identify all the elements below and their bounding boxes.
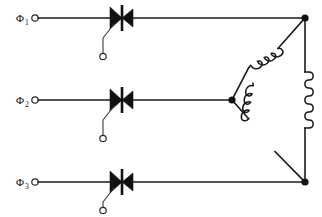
phase-1-thyristor-anode-triangle <box>110 7 122 29</box>
phase-2-group: Φ 2 <box>16 87 232 142</box>
node-top-right <box>301 14 308 21</box>
schematic-canvas: Φ 1 Φ 2 <box>0 0 322 217</box>
node-bottom-right <box>301 178 308 185</box>
winding-top <box>232 18 305 100</box>
phase-2-thyristor-anode-triangle <box>110 89 122 111</box>
winding-top-coil <box>249 48 283 68</box>
phase-1-gate-lead <box>103 24 114 53</box>
phase-3-label: Φ <box>16 176 24 188</box>
phase-3-group: Φ 3 <box>16 169 305 214</box>
phase-1-input-terminal[interactable] <box>32 15 38 21</box>
node-middle-left <box>228 96 235 103</box>
phase-2-subscript: 2 <box>25 100 29 109</box>
circuit-diagram: Φ 1 Φ 2 <box>0 0 322 217</box>
phase-3-gate-lead <box>103 188 114 207</box>
phase-1-group: Φ 1 <box>16 5 305 60</box>
delta-load-group <box>228 14 313 185</box>
phase-2-gate-lead <box>103 106 114 135</box>
phase-2-input-terminal[interactable] <box>32 97 38 103</box>
phase-1-thyristor-cathode-triangle <box>122 9 133 27</box>
phase-3-thyristor-cathode-triangle <box>122 173 133 191</box>
winding-top-lead-a <box>278 18 305 48</box>
phase-3-thyristor[interactable] <box>110 169 133 195</box>
phase-3-subscript: 3 <box>25 182 29 191</box>
winding-bottom-lead-b <box>275 152 305 182</box>
phase-3-thyristor-anode-triangle <box>110 171 122 193</box>
phase-2-thyristor[interactable] <box>110 87 133 113</box>
phase-1-subscript: 1 <box>25 18 29 27</box>
winding-right <box>305 18 313 182</box>
winding-right-coil <box>305 72 313 128</box>
phase-2-gate-terminal[interactable] <box>100 135 106 141</box>
phase-3-input-terminal[interactable] <box>32 179 38 185</box>
phase-2-thyristor-cathode-triangle <box>122 91 133 109</box>
phase-1-thyristor[interactable] <box>110 5 133 31</box>
phase-3-gate-terminal[interactable] <box>100 207 106 213</box>
phase-1-label: Φ <box>16 12 24 24</box>
phase-1-gate-terminal[interactable] <box>100 53 106 59</box>
phase-2-label: Φ <box>16 94 24 106</box>
winding-bottom <box>228 83 305 182</box>
